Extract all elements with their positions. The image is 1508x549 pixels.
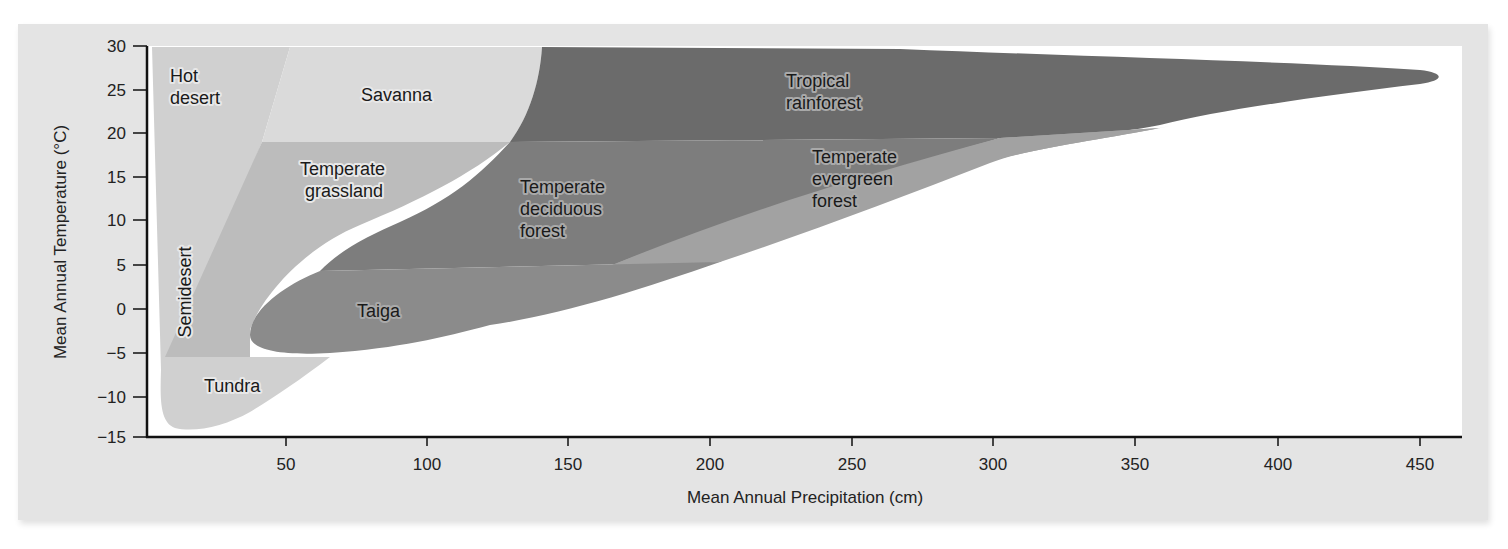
- biome-chart: 30 25 20 15 10 5 0 −5 −10 −15 50 100 150…: [0, 0, 1508, 549]
- label-hot-desert-line2: desert: [170, 88, 220, 108]
- x-tick-label: 100: [413, 455, 441, 474]
- label-deciduous-line2: deciduous: [520, 199, 602, 219]
- y-tick-label: −10: [97, 388, 126, 407]
- label-tropical-line2: rainforest: [786, 93, 861, 113]
- y-ticks: [133, 46, 147, 437]
- y-axis-title: Mean Annual Temperature (°C): [51, 125, 70, 359]
- x-tick-label: 200: [696, 455, 724, 474]
- y-tick-label: −5: [107, 344, 126, 363]
- label-deciduous-line1: Temperate: [520, 177, 605, 197]
- x-tick-label: 400: [1264, 455, 1292, 474]
- y-tick-label: 5: [117, 256, 126, 275]
- x-ticks: [286, 437, 1420, 446]
- y-tick-label: 30: [107, 37, 126, 56]
- label-grassland-line1: Temperate: [300, 159, 385, 179]
- label-grassland-line2: grassland: [305, 181, 383, 201]
- x-tick-label: 300: [979, 455, 1007, 474]
- y-tick-label: 15: [107, 168, 126, 187]
- label-evergreen-line1: Temperate: [812, 147, 897, 167]
- label-deciduous-line3: forest: [520, 221, 565, 241]
- y-tick-label: 10: [107, 211, 126, 230]
- label-semidesert: Semidesert: [175, 246, 195, 337]
- x-tick-label: 450: [1406, 455, 1434, 474]
- label-savanna: Savanna: [361, 85, 433, 105]
- label-tundra: Tundra: [204, 376, 261, 396]
- x-tick-labels: 50 100 150 200 250 300 350 400 450: [277, 455, 1435, 474]
- y-tick-label: −15: [97, 428, 126, 447]
- y-tick-label: 25: [107, 81, 126, 100]
- y-tick-label: 20: [107, 124, 126, 143]
- x-tick-label: 250: [838, 455, 866, 474]
- label-taiga: Taiga: [357, 301, 401, 321]
- label-evergreen-line2: evergreen: [812, 169, 893, 189]
- x-tick-label: 50: [277, 455, 296, 474]
- label-tropical-line1: Tropical: [786, 71, 849, 91]
- label-hot-desert-line1: Hot: [170, 66, 198, 86]
- x-tick-label: 350: [1121, 455, 1149, 474]
- y-tick-labels: 30 25 20 15 10 5 0 −5 −10 −15: [97, 37, 126, 447]
- label-evergreen-line3: forest: [812, 191, 857, 211]
- x-axis-title: Mean Annual Precipitation (cm): [687, 488, 923, 507]
- x-tick-label: 150: [554, 455, 582, 474]
- y-tick-label: 0: [117, 300, 126, 319]
